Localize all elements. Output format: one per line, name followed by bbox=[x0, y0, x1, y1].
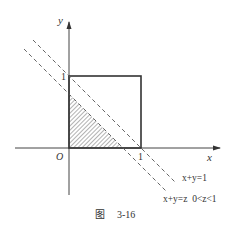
label-x-plus-y-eq-1: x+y=1 bbox=[182, 173, 207, 183]
line-x-plus-y-eq-z bbox=[24, 49, 166, 191]
x-axis-label: x bbox=[206, 151, 212, 163]
figure-caption-prefix: 图 bbox=[95, 209, 105, 220]
label-x-plus-y-eq-z: x+y=z 0<z<1 bbox=[163, 194, 217, 204]
origin-label: O bbox=[56, 151, 63, 162]
diagram-canvas: y x O 1 1 x+y=1 x+y=z 0<z<1 图 3-16 bbox=[0, 0, 240, 225]
line-x-plus-y-eq-1 bbox=[33, 40, 176, 183]
x-tick-label: 1 bbox=[138, 151, 143, 162]
y-tick-label: 1 bbox=[61, 71, 66, 82]
y-axis-label: y bbox=[57, 14, 63, 26]
figure-caption-number: 3-16 bbox=[117, 209, 135, 220]
